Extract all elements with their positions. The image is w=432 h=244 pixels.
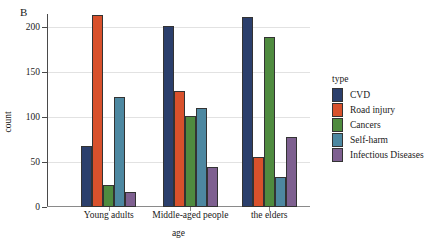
- legend-item[interactable]: Road injury: [332, 102, 424, 117]
- bar: [196, 108, 207, 207]
- legend-item[interactable]: Cancers: [332, 117, 424, 132]
- y-axis-tick-label: 0: [35, 202, 40, 212]
- legend: type CVDRoad injuryCancersSelf-harmInfec…: [332, 74, 424, 162]
- legend-label: Cancers: [350, 120, 381, 130]
- bar: [103, 185, 114, 207]
- y-axis-tick-label: 50: [31, 157, 41, 167]
- y-axis-tick-label: 150: [26, 67, 40, 77]
- legend-item[interactable]: CVD: [332, 87, 424, 102]
- bar: [125, 192, 136, 207]
- bar-group: Young adults: [81, 14, 136, 207]
- x-axis-category-label: Middle-aged people: [152, 210, 228, 220]
- plot-area: 050100150200 Young adultsMiddle-aged peo…: [47, 14, 310, 207]
- bar-group: Middle-aged people: [163, 14, 218, 207]
- legend-swatch: [332, 148, 343, 162]
- x-axis-category-label: the elders: [251, 210, 288, 220]
- bar: [286, 137, 297, 207]
- bar: [275, 177, 286, 207]
- legend-swatch: [332, 133, 343, 147]
- legend-item[interactable]: Infectious Diseases: [332, 147, 424, 162]
- bar: [174, 91, 185, 207]
- legend-label: CVD: [350, 90, 370, 100]
- bar: [114, 97, 125, 207]
- legend-swatch: [332, 88, 343, 102]
- bar: [253, 157, 264, 207]
- legend-label: Self-harm: [350, 135, 388, 145]
- legend-title: type: [332, 74, 424, 84]
- bar: [185, 116, 196, 207]
- y-axis-tick: [42, 207, 47, 208]
- legend-label: Road injury: [350, 105, 395, 115]
- legend-item[interactable]: Self-harm: [332, 132, 424, 147]
- x-axis-category-label: Young adults: [84, 210, 134, 220]
- bar-group: the elders: [242, 14, 297, 207]
- panel-letter: B: [20, 6, 27, 18]
- chart-figure: B count 050100150200 Young adultsMiddle-…: [0, 0, 432, 244]
- bar: [163, 26, 174, 207]
- x-axis-title: age: [47, 228, 310, 238]
- bar: [207, 167, 218, 207]
- bar: [242, 17, 253, 207]
- bar-groups: Young adultsMiddle-aged peoplethe elders: [47, 14, 310, 207]
- y-axis-tick-label: 100: [26, 112, 40, 122]
- y-axis-tick-label: 200: [26, 22, 40, 32]
- y-axis-title: count: [3, 111, 13, 132]
- bar: [264, 37, 275, 207]
- legend-swatch: [332, 103, 343, 117]
- legend-label: Infectious Diseases: [350, 150, 424, 160]
- bar: [92, 15, 103, 207]
- bar: [81, 146, 92, 207]
- legend-swatch: [332, 118, 343, 132]
